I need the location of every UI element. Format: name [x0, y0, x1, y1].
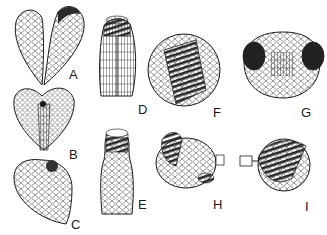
panel-label-i: I: [305, 200, 309, 213]
panel-d-drawing: [100, 16, 136, 96]
panel-f-drawing: [148, 34, 220, 106]
panel-label-a: A: [69, 68, 78, 81]
panel-label-g: G: [301, 106, 311, 119]
panel-g-drawing: [243, 32, 324, 98]
panel-label-e: E: [138, 198, 147, 211]
panel-e-drawing: [101, 129, 134, 214]
panel-b-drawing: [14, 88, 74, 150]
panel-i-drawing: [240, 139, 310, 191]
figure-drawings: [0, 0, 327, 235]
panel-h-drawing: [156, 133, 224, 189]
panel-c-drawing: [14, 160, 72, 224]
panel-label-b: B: [69, 148, 78, 161]
botanical-figure: A B C D E F G H I: [0, 0, 327, 235]
panel-label-h: H: [213, 198, 222, 211]
panel-label-c: C: [71, 218, 80, 231]
panel-label-d: D: [138, 103, 147, 116]
panel-label-f: F: [213, 106, 221, 119]
